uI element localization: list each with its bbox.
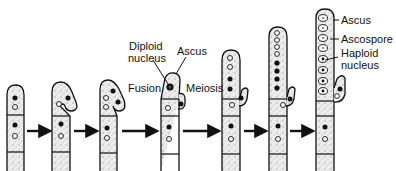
label-haploid-nucleus-line1: Haploid [341,48,378,59]
stage-6-hypha [269,27,295,171]
stage-1-hypha [7,85,24,171]
stage-2-hypha [52,82,77,171]
stage-4-hypha [153,57,186,171]
label-meiosis: Meiosis [186,83,223,94]
label-ascospore: Ascospore [341,34,393,45]
stage-5-hypha [222,50,248,171]
stage-3-hypha [100,80,125,171]
label-ascus-stage-7: Ascus [341,15,371,26]
label-fusion: Fusion [128,83,161,94]
label-ascus-stage-4: Ascus [177,46,207,57]
label-diploid-nucleus-line1: Diploid [129,41,163,52]
label-haploid-nucleus-line2: nucleus [341,60,379,71]
label-diploid-nucleus-line2: nucleus [128,53,166,64]
